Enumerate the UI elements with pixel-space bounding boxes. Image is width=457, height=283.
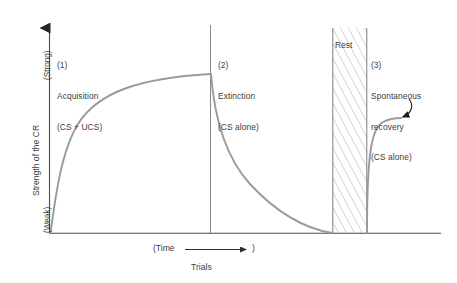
- rest-band: [333, 28, 367, 233]
- phase-1-name: Acquisition: [57, 91, 102, 101]
- conditioning-figure: Strength of the CR (Strong) (Weak) (1) A…: [0, 0, 457, 283]
- phase-1-label: (1) Acquisition (CS + UCS): [57, 40, 102, 152]
- phase-1-number: (1): [57, 60, 102, 70]
- rest-band-label: Rest: [335, 40, 352, 50]
- phase-2-name: Extinction: [218, 91, 259, 101]
- phase-3-label: (3) Spontaneous recovery (CS alone): [371, 40, 421, 183]
- phase-3-name-second: recovery: [371, 122, 421, 132]
- time-label-close: ): [252, 243, 255, 253]
- y-axis-title: Strength of the CR: [31, 125, 41, 196]
- phase-3-number: (3): [371, 60, 421, 70]
- phase-2-label: (2) Extinction (CS alone): [218, 40, 259, 152]
- time-label-open: (Time: [153, 243, 175, 253]
- phase-2-number: (2): [218, 60, 259, 70]
- phase-3-name: Spontaneous: [371, 91, 421, 101]
- x-axis-title: Trials: [191, 262, 212, 272]
- y-axis-top-label: (Strong): [43, 50, 52, 80]
- phase-3-detail: (CS alone): [371, 152, 421, 162]
- phase-2-detail: (CS alone): [218, 122, 259, 132]
- y-axis-bottom-label: (Weak): [43, 207, 52, 233]
- phase-1-detail: (CS + UCS): [57, 122, 102, 132]
